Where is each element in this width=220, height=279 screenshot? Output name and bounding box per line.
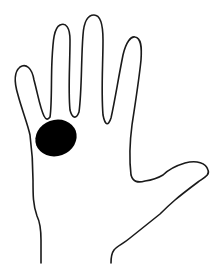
hand-diagram [0,0,220,279]
hand-outline-drawing [0,0,220,279]
palm-spot-marker [30,114,82,162]
